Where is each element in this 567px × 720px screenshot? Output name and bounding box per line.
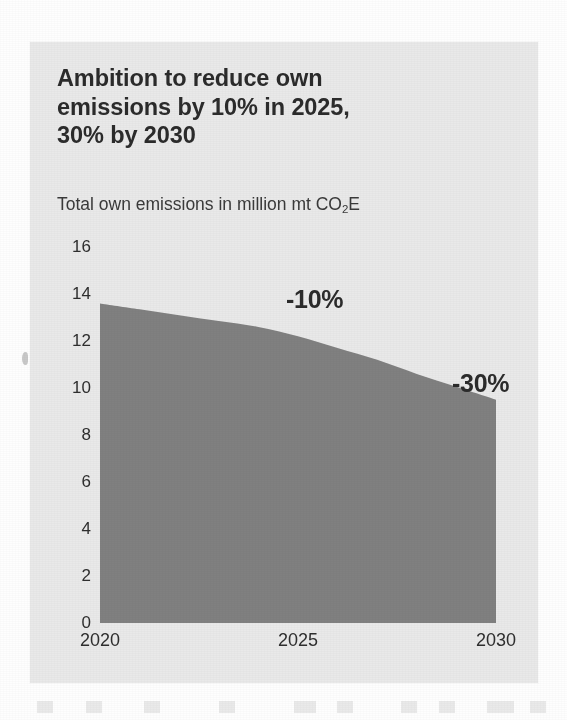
emissions-area-series [100, 303, 496, 623]
x-axis-tick-2025: 2025 [278, 630, 318, 651]
subtitle-subscript: 2 [342, 203, 348, 215]
y-axis-tick-2: 2 [82, 566, 91, 586]
subtitle-prefix: Total own emissions in million mt CO [57, 194, 342, 214]
y-axis-tick-14: 14 [72, 284, 91, 304]
y-axis-tick-10: 10 [72, 378, 91, 398]
scan-edge-artifact [22, 352, 28, 365]
y-axis-tick-4: 4 [82, 519, 91, 539]
figure-subtitle: Total own emissions in million mt CO2E [57, 194, 360, 215]
subtitle-suffix: E [348, 194, 360, 214]
figure-title: Ambition to reduce own emissions by 10% … [57, 64, 477, 150]
figure-title-line-3: 30% by 2030 [57, 121, 477, 150]
y-axis-tick-16: 16 [72, 237, 91, 257]
scan-bottom-text-bleed [16, 701, 551, 713]
figure-title-line-2: emissions by 10% in 2025, [57, 93, 477, 122]
figure-title-line-1: Ambition to reduce own [57, 64, 477, 93]
y-axis-tick-8: 8 [82, 425, 91, 445]
y-axis-tick-12: 12 [72, 331, 91, 351]
figure-panel: Ambition to reduce own emissions by 10% … [30, 42, 538, 683]
annotation-minus-10-percent: -10% [286, 285, 343, 314]
annotation-minus-30-percent: -30% [452, 369, 509, 398]
x-axis-tick-2030: 2030 [476, 630, 516, 651]
scanned-page: Ambition to reduce own emissions by 10% … [0, 0, 567, 720]
area-chart-plot: 0246810121416 2020 2025 2030 -10% -30% [100, 247, 496, 623]
x-axis-tick-2020: 2020 [80, 630, 120, 651]
y-axis-tick-6: 6 [82, 472, 91, 492]
